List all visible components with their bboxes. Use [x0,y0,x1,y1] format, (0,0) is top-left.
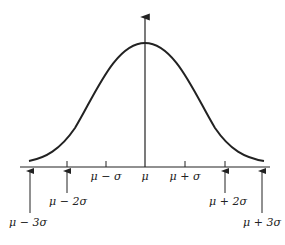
label-mu-plus-2sigma: μ + 2σ [209,195,247,208]
label-mu-minus-2sigma: μ − 2σ [49,195,87,208]
label-mu-minus-sigma: μ − σ [91,170,122,183]
bell-curve [29,43,264,161]
label-mu-plus-3sigma: μ + 3σ [243,216,281,229]
normal-curve-diagram [0,0,285,245]
label-mu-plus-sigma: μ + σ [170,170,201,183]
label-mu: μ [141,170,148,183]
label-mu-minus-3sigma: μ − 3σ [9,216,47,229]
